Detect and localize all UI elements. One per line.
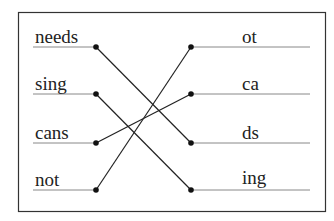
left-dot-2 (93, 91, 99, 97)
matching-diagram: needs sing cans not ot ca ds ing (0, 0, 334, 221)
left-word-1: needs (35, 26, 78, 47)
connection-needs-ds (96, 47, 191, 143)
connection-sing-ing (96, 94, 191, 190)
right-word-2: ca (242, 73, 259, 94)
right-dot-4 (188, 187, 194, 193)
connection-lines (96, 47, 191, 190)
right-dot-3 (188, 140, 194, 146)
left-dot-1 (93, 44, 99, 50)
right-word-1: ot (242, 26, 258, 47)
left-dot-3 (93, 140, 99, 146)
left-word-4: not (35, 169, 60, 190)
right-dot-1 (188, 44, 194, 50)
right-word-4: ing (242, 167, 267, 188)
left-dot-4 (93, 187, 99, 193)
right-dot-2 (188, 91, 194, 97)
right-word-3: ds (242, 122, 259, 143)
left-word-2: sing (35, 73, 67, 94)
connection-not-ot (96, 47, 191, 190)
left-word-3: cans (35, 122, 69, 143)
